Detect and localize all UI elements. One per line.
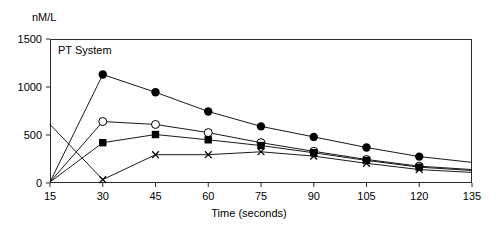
x-tick-label-45: 45 bbox=[136, 191, 176, 202]
x-tick-label-90: 90 bbox=[294, 191, 334, 202]
x-tick-label-60: 60 bbox=[188, 191, 228, 202]
series-filled-circle-marker bbox=[99, 70, 107, 78]
series-open-circle-marker bbox=[99, 118, 107, 126]
series-open-circle-marker bbox=[204, 129, 212, 137]
series-open-circle-marker bbox=[152, 120, 160, 128]
x-tick-label-135: 135 bbox=[452, 191, 492, 202]
series-cross-marker bbox=[99, 176, 106, 183]
series-filled-circle-marker bbox=[310, 133, 318, 141]
series-filled-square-marker bbox=[152, 131, 159, 138]
x-tick-label-30: 30 bbox=[83, 191, 123, 202]
y-tick-label-1500: 1500 bbox=[0, 34, 42, 45]
series-filled-circle-marker bbox=[415, 152, 423, 160]
x-axis-title: Time (seconds) bbox=[0, 207, 498, 219]
chart-canvas bbox=[0, 0, 498, 238]
series-filled-square-marker bbox=[257, 142, 264, 149]
series-filled-circle-marker bbox=[151, 88, 159, 96]
chart-figure: nM/L PT System 150010005000 153045607590… bbox=[0, 0, 498, 238]
y-tick-label-1000: 1000 bbox=[0, 82, 42, 93]
series-layer bbox=[50, 70, 472, 183]
x-tick-label-15: 15 bbox=[30, 191, 70, 202]
series-filled-circle-marker bbox=[257, 122, 265, 130]
series-filled-square-marker bbox=[205, 136, 212, 143]
y-tick-label-500: 500 bbox=[0, 130, 42, 141]
x-tick-label-75: 75 bbox=[241, 191, 281, 202]
series-filled-square-marker bbox=[99, 139, 106, 146]
series-filled-circle-marker bbox=[362, 143, 370, 151]
y-tick-label-0: 0 bbox=[0, 178, 42, 189]
series-filled-circle-marker bbox=[204, 107, 212, 115]
x-tick-label-120: 120 bbox=[399, 191, 439, 202]
x-tick-label-105: 105 bbox=[347, 191, 387, 202]
